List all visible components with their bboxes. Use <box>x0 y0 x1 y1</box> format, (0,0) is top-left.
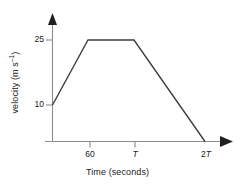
x-2T-variable: T <box>206 149 211 159</box>
x-axis-right-arrow-icon <box>220 136 233 147</box>
y-axis-up-arrow-icon <box>48 13 57 25</box>
velocity-trace <box>53 40 206 142</box>
y-axis-title-exponent: –1 <box>8 55 15 63</box>
y-axis-title-close: ) <box>10 52 20 55</box>
y-axis-tick-label-25: 25 <box>24 35 44 44</box>
y-axis-tick-label-10: 10 <box>24 100 44 109</box>
x-axis-title: Time (seconds) <box>86 168 149 177</box>
velocity-time-chart: 25 10 60 T 2T Time (seconds) velocity (m… <box>0 0 245 187</box>
x-axis-tick-label-60: 60 <box>80 150 100 159</box>
x-axis-tick-label-2T: 2T <box>195 150 217 159</box>
y-axis-title: velocity (m s–1) <box>11 28 20 138</box>
x-axis-tick-label-T: T <box>125 150 145 159</box>
y-axis-title-base: velocity (m s <box>10 62 20 113</box>
